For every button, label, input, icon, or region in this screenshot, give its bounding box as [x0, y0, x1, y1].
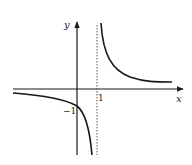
y-axis-label: y — [63, 19, 70, 30]
left-branch-curve — [13, 93, 92, 155]
x-axis-label: x — [176, 93, 182, 104]
x-tick-label: 1 — [98, 93, 104, 103]
right-branch-curve — [101, 23, 172, 82]
function-graph: y x 1 −1 — [0, 0, 192, 165]
y-tick-label: −1 — [63, 106, 76, 116]
